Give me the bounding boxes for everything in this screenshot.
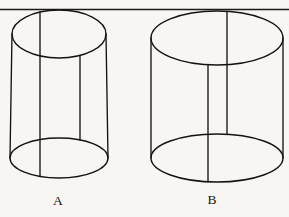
cylinder-a	[10, 10, 108, 178]
figure-canvas: A B	[0, 0, 289, 217]
cylinder-b-label: B	[207, 192, 216, 207]
cylinder-b-bottom-ellipse	[151, 134, 283, 182]
cylinder-b-top-ellipse	[151, 11, 283, 65]
cylinder-a-top-ellipse	[12, 10, 106, 58]
cylinder-a-left-silhouette	[10, 34, 12, 158]
cylinder-a-label: A	[53, 193, 63, 208]
cylinder-a-right-silhouette	[106, 34, 108, 158]
cylinder-a-bottom-ellipse	[10, 138, 108, 178]
cylinder-comparison-figure: A B	[0, 0, 289, 217]
cylinder-b	[151, 11, 283, 182]
